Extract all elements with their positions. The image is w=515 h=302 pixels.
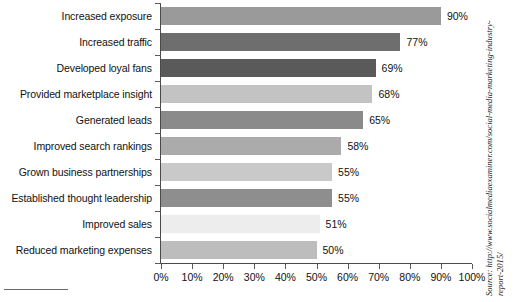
y-axis-tick	[155, 211, 161, 212]
x-axis-tick	[379, 264, 380, 269]
y-axis-tick	[155, 237, 161, 238]
bar-value-label: 69%	[376, 59, 403, 77]
bar	[161, 7, 441, 25]
x-axis-tick-label: 20%	[213, 271, 234, 283]
bar-track: 51%	[161, 211, 472, 237]
bar	[161, 241, 317, 259]
category-label: Generated leads	[2, 114, 157, 126]
bar	[161, 189, 332, 207]
bar	[161, 163, 332, 181]
bar	[161, 111, 363, 129]
bar-track: 90%	[161, 3, 472, 29]
x-axis-tick	[410, 264, 411, 269]
category-label: Improved search rankings	[2, 140, 157, 152]
x-axis-tick	[254, 264, 255, 269]
x-axis-tick	[285, 264, 286, 269]
y-axis-tick	[155, 55, 161, 56]
bar	[161, 85, 372, 103]
bar-row: Generated leads65%	[0, 107, 468, 133]
bar-row: Established thought leadership55%	[0, 185, 468, 211]
x-axis-tick-label: 10%	[182, 271, 203, 283]
y-axis-tick	[155, 81, 161, 82]
bar-row: Reduced marketing expenses50%	[0, 237, 468, 263]
plot-area: Increased exposure90%Increased traffic77…	[0, 0, 468, 302]
bar-track: 50%	[161, 237, 472, 263]
bar-track: 77%	[161, 29, 472, 55]
category-label: Grown business partnerships	[2, 166, 157, 178]
bar-value-label: 77%	[400, 33, 427, 51]
source-note: Source: http://www.socialmediaexaminer.c…	[470, 0, 515, 302]
category-label: Improved sales	[2, 218, 157, 230]
category-label: Reduced marketing expenses	[2, 244, 157, 256]
bar	[161, 215, 320, 233]
bar-value-label: 51%	[320, 215, 347, 233]
x-axis-tick-label: 70%	[368, 271, 389, 283]
bar-value-label: 50%	[317, 241, 344, 259]
x-axis-tick	[223, 264, 224, 269]
bar	[161, 137, 341, 155]
x-axis-tick	[192, 264, 193, 269]
horizontal-bar-chart: Increased exposure90%Increased traffic77…	[0, 0, 515, 302]
x-axis-tick-label: 50%	[306, 271, 327, 283]
x-axis-tick-label: 40%	[275, 271, 296, 283]
bar-value-label: 58%	[341, 137, 368, 155]
bar-row: Provided marketplace insight68%	[0, 81, 468, 107]
bar	[161, 33, 400, 51]
y-axis-tick	[155, 185, 161, 186]
bar-row: Improved search rankings58%	[0, 133, 468, 159]
bar-row: Developed loyal fans69%	[0, 55, 468, 81]
category-label: Increased traffic	[2, 36, 157, 48]
y-axis-tick	[155, 159, 161, 160]
bar-track: 58%	[161, 133, 472, 159]
source-line-1: Source: http://www.socialmediaexaminer.c…	[484, 20, 494, 296]
bar-row: Increased exposure90%	[0, 3, 468, 29]
x-axis-tick-label: 30%	[244, 271, 265, 283]
source-line-2: report-2015/	[495, 252, 505, 296]
bar-value-label: 55%	[332, 189, 359, 207]
category-label: Established thought leadership	[2, 192, 157, 204]
bar-row: Increased traffic77%	[0, 29, 468, 55]
x-axis-tick-label: 80%	[399, 271, 420, 283]
x-axis-tick-label: 0%	[153, 271, 168, 283]
y-axis-tick	[155, 29, 161, 30]
x-axis-tick	[441, 264, 442, 269]
x-axis-tick	[161, 264, 162, 269]
x-axis-tick	[348, 264, 349, 269]
bar-row: Grown business partnerships55%	[0, 159, 468, 185]
bar-value-label: 68%	[372, 85, 399, 103]
bottom-divider-rule	[4, 289, 68, 290]
category-label: Provided marketplace insight	[2, 88, 157, 100]
bar-value-label: 65%	[363, 111, 390, 129]
y-axis-tick	[155, 133, 161, 134]
x-axis-tick-label: 90%	[430, 271, 451, 283]
bar-track: 68%	[161, 81, 472, 107]
category-label: Increased exposure	[2, 10, 157, 22]
bar-track: 65%	[161, 107, 472, 133]
category-label: Developed loyal fans	[2, 62, 157, 74]
bar	[161, 59, 376, 77]
bar-track: 55%	[161, 159, 472, 185]
y-axis-tick	[155, 107, 161, 108]
bar-row: Improved sales51%	[0, 211, 468, 237]
bar-rows: Increased exposure90%Increased traffic77…	[0, 3, 468, 263]
bar-value-label: 55%	[332, 163, 359, 181]
bar-value-label: 90%	[441, 7, 468, 25]
bar-track: 69%	[161, 55, 472, 81]
bar-track: 55%	[161, 185, 472, 211]
x-axis-tick-label: 60%	[337, 271, 358, 283]
x-axis-tick	[317, 264, 318, 269]
y-axis-tick	[155, 3, 161, 4]
